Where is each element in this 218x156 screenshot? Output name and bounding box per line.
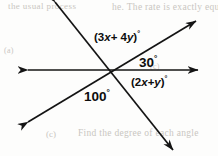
angle-value: 30 — [139, 55, 154, 70]
degree-symbol: ° — [165, 75, 168, 83]
angle-label-upper-right: 30° — [139, 54, 157, 69]
degree-symbol: ° — [107, 87, 110, 97]
degree-symbol: ° — [154, 53, 157, 63]
angle-label-lower-right: (2x+y)° — [131, 76, 167, 88]
angle-expression-prefix: (3 — [94, 31, 104, 43]
angle-label-lower-left: 100° — [84, 88, 110, 103]
angle-expression-prefix: (2 — [131, 76, 141, 88]
degree-symbol: ° — [137, 30, 140, 38]
angle-diagram-figure: the usual process he. The rate is exactl… — [0, 0, 218, 156]
angle-value: 100 — [84, 89, 107, 104]
angle-expression-middle: + 4 — [111, 31, 127, 43]
intersecting-lines-drawing — [0, 0, 218, 156]
angle-label-upper-left: (3x+ 4y)° — [94, 31, 140, 43]
